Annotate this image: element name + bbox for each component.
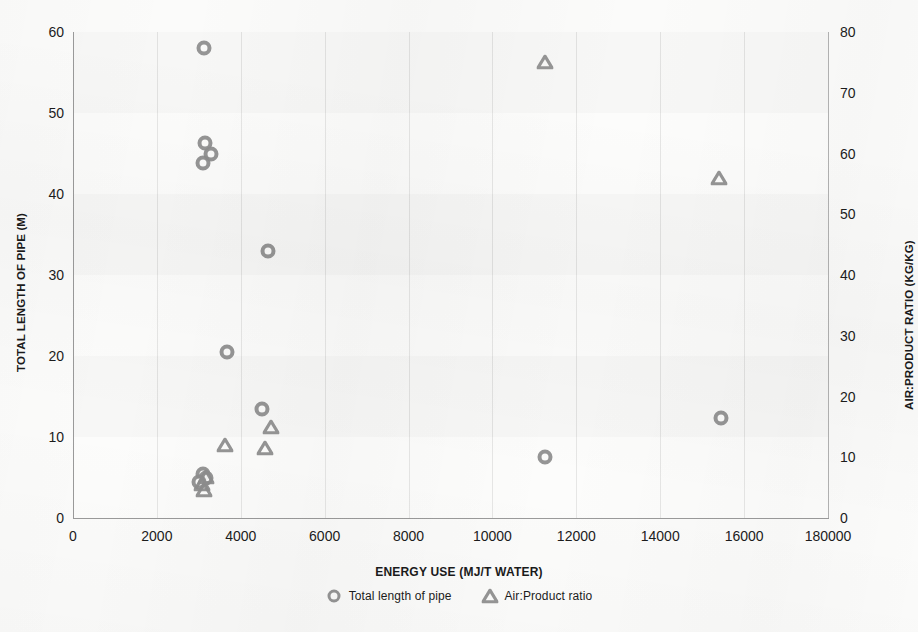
shade-band xyxy=(73,194,828,275)
triangle-marker-icon xyxy=(481,589,498,604)
x-axis-title: ENERGY USE (MJ/T WATER) xyxy=(0,565,918,579)
y-axis-right-tick-label: 10 xyxy=(840,449,896,465)
y-axis-right-tick-label: 50 xyxy=(840,206,896,222)
data-point xyxy=(262,419,279,434)
circle-marker-icon xyxy=(195,156,210,171)
data-point xyxy=(537,450,552,465)
y-axis-right-tick-label: 40 xyxy=(840,267,896,283)
y-axis-left-tick-label: 0 xyxy=(18,510,64,526)
y-axis-right-tick-label: 0 xyxy=(840,510,896,526)
y-axis-right-title: AIR:PRODUCT RATIO (KG/KG) xyxy=(903,240,915,410)
x-axis-tick-label: 180000 xyxy=(805,528,852,544)
x-axis-tick-label: 10000 xyxy=(473,528,512,544)
data-point xyxy=(195,156,210,171)
circle-marker-icon xyxy=(537,450,552,465)
chart-legend: Total length of pipeAir:Product ratio xyxy=(0,588,918,604)
circle-marker-icon xyxy=(254,402,269,417)
x-axis-line xyxy=(73,518,829,519)
circle-marker-icon xyxy=(327,590,340,603)
y-axis-right-tick-label: 70 xyxy=(840,85,896,101)
circle-marker-icon xyxy=(261,243,276,258)
legend-label: Total length of pipe xyxy=(349,589,452,603)
data-point xyxy=(196,41,211,56)
data-point xyxy=(257,441,274,456)
y-axis-right-tick-label: 80 xyxy=(840,24,896,40)
x-axis-tick-label: 8000 xyxy=(393,528,424,544)
data-point xyxy=(710,170,727,185)
x-axis-tick-label: 6000 xyxy=(309,528,340,544)
gridline-x xyxy=(492,32,493,518)
gridline-x xyxy=(576,32,577,518)
gridline-x xyxy=(157,32,158,518)
y-axis-left-tick-label: 40 xyxy=(18,186,64,202)
gridline-x xyxy=(241,32,242,518)
legend-item[interactable]: Air:Product ratio xyxy=(482,588,593,604)
legend-label: Air:Product ratio xyxy=(505,589,593,603)
y-axis-right-tick-label: 30 xyxy=(840,328,896,344)
y-axis-right-tick-label: 60 xyxy=(840,146,896,162)
y-axis-left-tick-label: 50 xyxy=(18,105,64,121)
circle-marker-icon xyxy=(219,344,234,359)
triangle-marker-icon xyxy=(217,438,234,453)
scatter-chart: 0102030405060 01020304050607080 02000400… xyxy=(0,0,918,632)
legend-circle-icon xyxy=(326,588,342,604)
plot-area xyxy=(73,32,828,518)
circle-marker-icon xyxy=(714,411,729,426)
gridline-x xyxy=(409,32,410,518)
data-point xyxy=(254,402,269,417)
data-point xyxy=(714,411,729,426)
x-axis-tick-label: 2000 xyxy=(141,528,172,544)
data-point xyxy=(219,344,234,359)
x-axis-tick-label: 12000 xyxy=(557,528,596,544)
data-point xyxy=(261,243,276,258)
triangle-marker-icon xyxy=(710,170,727,185)
triangle-marker-icon xyxy=(536,55,553,70)
gridline-x xyxy=(744,32,745,518)
y-axis-left-title: TOTAL LENGTH OF PIPE (M) xyxy=(15,213,27,372)
y-axis-left-tick-label: 60 xyxy=(18,24,64,40)
legend-triangle-icon xyxy=(482,588,498,604)
x-axis-tick-label: 16000 xyxy=(725,528,764,544)
x-axis-tick-label: 4000 xyxy=(225,528,256,544)
y-axis-right-tick-label: 20 xyxy=(840,389,896,405)
triangle-marker-icon xyxy=(257,441,274,456)
triangle-marker-icon xyxy=(262,419,279,434)
data-point xyxy=(195,483,212,498)
circle-marker-icon xyxy=(196,41,211,56)
shade-band xyxy=(73,32,828,113)
triangle-marker-icon xyxy=(195,483,212,498)
y-axis-left-line xyxy=(73,32,74,519)
gridline-x xyxy=(325,32,326,518)
y-axis-left-tick-label: 10 xyxy=(18,429,64,445)
legend-item[interactable]: Total length of pipe xyxy=(326,588,452,604)
x-axis-tick-label: 14000 xyxy=(641,528,680,544)
gridline-x xyxy=(660,32,661,518)
y-axis-right-line xyxy=(828,32,829,519)
x-axis-tick-label: 0 xyxy=(69,528,77,544)
data-point xyxy=(536,55,553,70)
data-point xyxy=(217,438,234,453)
